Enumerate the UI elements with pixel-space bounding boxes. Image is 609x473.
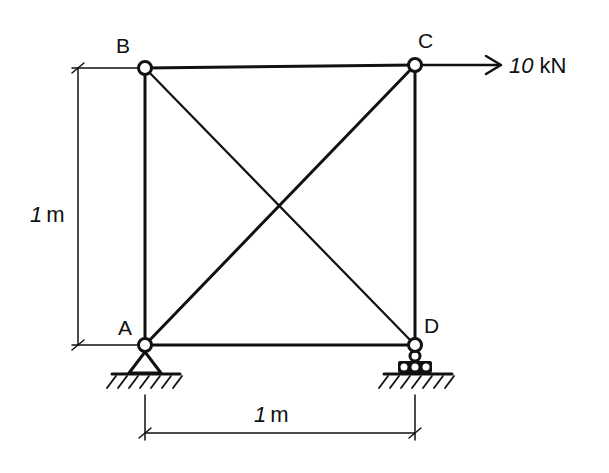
dimension-width <box>139 395 440 440</box>
load-label: 10kN <box>509 53 566 78</box>
ground-hatch-icon <box>107 376 182 388</box>
joint-c-icon <box>409 59 422 72</box>
roller-wheel-icon <box>401 364 408 371</box>
dimension-height-label: 1m <box>30 202 65 227</box>
load-arrow <box>422 56 501 74</box>
roller-wheel-icon <box>412 364 419 371</box>
load-unit: kN <box>539 53 566 78</box>
height-unit: m <box>46 202 64 227</box>
width-unit: m <box>270 402 288 427</box>
joint-a-icon <box>139 339 152 352</box>
dimension-width-label: 1m <box>254 402 289 427</box>
roller-wheel-icon <box>423 364 430 371</box>
pin-support-a <box>107 352 182 388</box>
node-label-a: A <box>118 316 132 339</box>
truss-diagram: B C A D 10kN 1m 1m <box>0 0 609 473</box>
height-value: 1 <box>30 202 42 227</box>
node-label-d: D <box>424 314 439 337</box>
dimension-height <box>72 63 140 350</box>
ground-hatch-icon <box>379 376 454 388</box>
width-value: 1 <box>254 402 266 427</box>
joint-b-icon <box>139 62 152 75</box>
pin-triangle-icon <box>129 352 161 373</box>
roller-support-d <box>379 351 454 388</box>
node-label-b: B <box>116 34 130 57</box>
load-value: 10 <box>509 53 534 78</box>
member-bc <box>145 65 415 68</box>
joint-d-icon <box>409 339 422 352</box>
node-label-c: C <box>418 29 433 52</box>
